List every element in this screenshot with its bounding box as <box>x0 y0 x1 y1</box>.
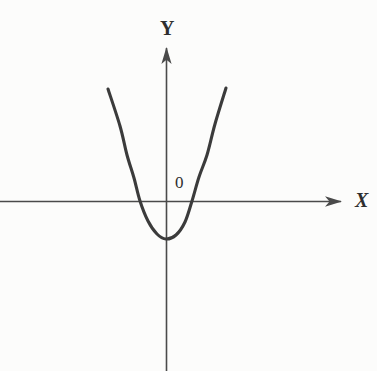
y-axis-label: Y <box>160 18 174 38</box>
origin-label: 0 <box>175 174 184 191</box>
figure-canvas <box>0 0 377 371</box>
x-axis-group <box>0 196 342 207</box>
y-axis-group <box>161 47 171 371</box>
parabola-figure: Y X 0 <box>0 0 377 371</box>
x-axis-label: X <box>355 190 368 210</box>
